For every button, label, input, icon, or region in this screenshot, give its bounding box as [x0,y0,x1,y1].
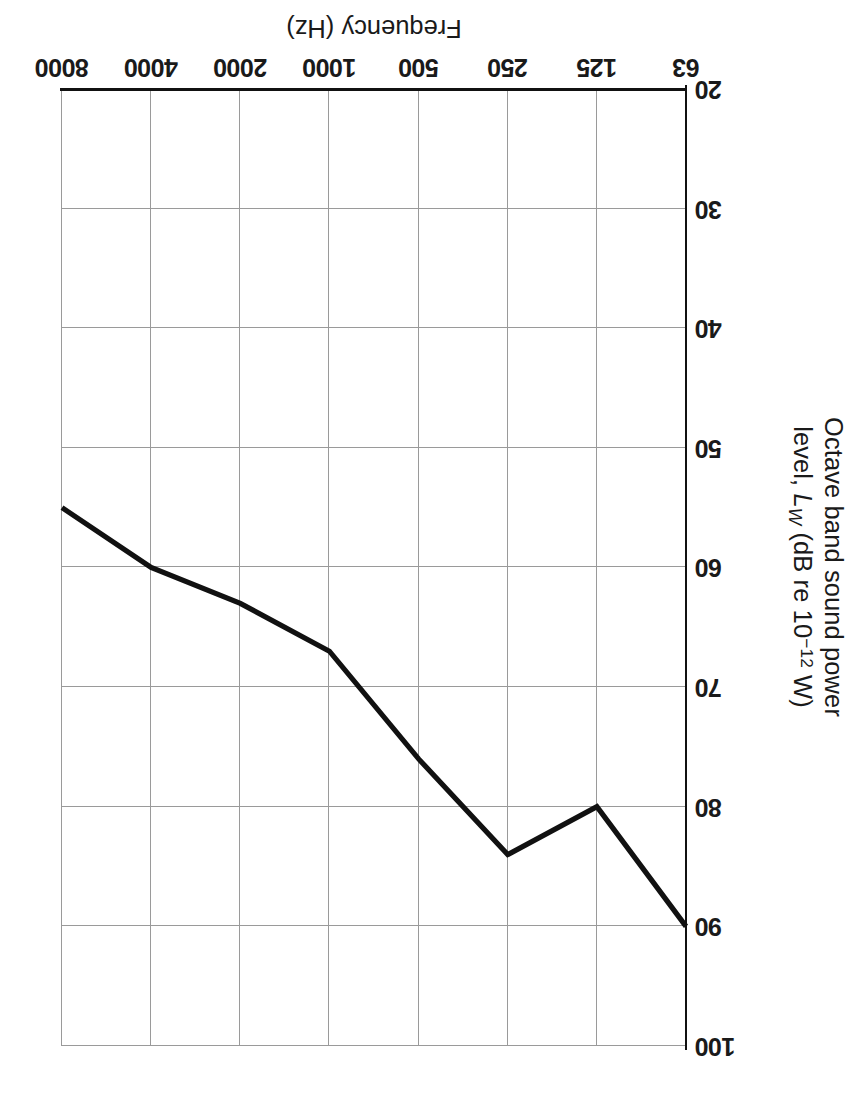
y-axis-title-line2-mid: (dB re 10 [788,526,816,639]
y-axis-title-symbol-subscript: W [785,508,806,525]
y-axis-title-line2-pre: level, [788,427,816,494]
y-tick-label: 30 [695,194,722,223]
x-tick-label: 125 [577,53,617,82]
x-axis-title: Frequency (Hz) [286,14,462,43]
y-tick-label: 50 [695,433,722,462]
x-tick-label: 500 [399,53,439,82]
plot-area: 20 30 40 50 60 70 80 90 100 63 125 250 5… [62,89,686,1046]
y-axis-title-symbol: L [788,494,816,508]
y-tick-label: 40 [695,314,722,343]
data-series-line [62,89,686,1046]
y-tick-label: 80 [695,792,722,821]
x-tick-label: 1000 [303,53,357,82]
y-tick-label: 60 [695,553,722,582]
y-tick-label: 90 [695,912,722,941]
x-tick-label: 250 [488,53,528,82]
y-axis-title-line1: Octave band sound power [820,418,848,718]
y-tick-label: 100 [695,1032,735,1061]
x-tick-label: 8000 [35,53,89,82]
y-axis-title-exponent: −12 [797,639,817,669]
x-tick-label: 63 [673,53,700,82]
y-tick-label: 70 [695,673,722,702]
x-tick-label: 4000 [124,53,178,82]
y-axis-title: Octave band sound power level, LW (dB re… [783,353,848,783]
y-axis-title-line2-post: W) [788,668,816,708]
x-tick-label: 2000 [214,53,268,82]
